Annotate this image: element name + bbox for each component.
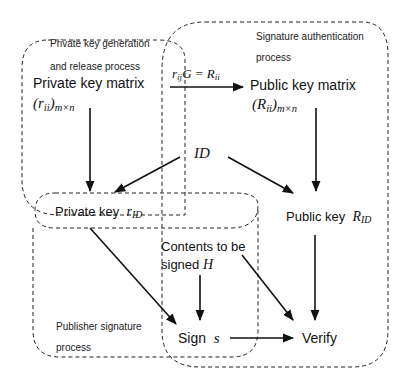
verify-node: Verify bbox=[302, 331, 337, 345]
public-key-matrix-symbol: (Rii)m×n bbox=[252, 97, 297, 114]
contents-line-1: Contents to be bbox=[161, 240, 246, 253]
region-label-private-gen-2: and release process bbox=[50, 62, 140, 72]
region-publisher-signature bbox=[33, 210, 258, 357]
private-key-matrix-title: Private key matrix bbox=[33, 76, 144, 90]
key-derivation-equation: rijG = Rii bbox=[172, 67, 220, 82]
region-label-sig-auth-2: process bbox=[256, 53, 291, 63]
region-label-publisher-1: Publisher signature bbox=[56, 322, 142, 332]
contents-line-2: signed H bbox=[161, 258, 213, 272]
region-label-publisher-2: process bbox=[56, 343, 91, 353]
sign-node: Sign s bbox=[178, 331, 220, 346]
public-key-node: Public key RID bbox=[286, 210, 371, 225]
region-label-private-gen-1: Private key generation bbox=[50, 39, 150, 49]
private-key-matrix-symbol: (rii)m×n bbox=[33, 96, 75, 113]
private-key-node: Private key rID bbox=[55, 205, 142, 220]
public-key-matrix-title: Public key matrix bbox=[250, 78, 356, 92]
id-node: ID bbox=[194, 146, 210, 161]
region-label-sig-auth-1: Signature authentication bbox=[256, 32, 364, 42]
